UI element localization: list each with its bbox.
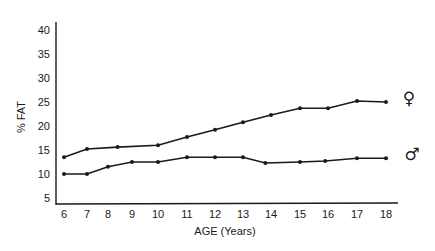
y-tick-label: 35 (38, 48, 50, 60)
y-tick-label: 25 (38, 96, 50, 108)
y-axis: 510152025303540 (38, 22, 56, 205)
data-point (213, 155, 217, 159)
y-tick-labels: 510152025303540 (38, 24, 50, 204)
data-point (326, 106, 330, 110)
data-point (116, 145, 120, 149)
data-point (106, 165, 110, 169)
data-point (241, 155, 245, 159)
line-chart: 510152025303540 6789101112131415161718 %… (0, 0, 435, 251)
data-point (355, 156, 359, 160)
x-tick-labels: 6789101112131415161718 (61, 208, 392, 220)
data-point (62, 155, 66, 159)
x-tick-label: 17 (351, 208, 363, 220)
data-point (298, 160, 302, 164)
y-tick-label: 30 (38, 72, 50, 84)
series-female (62, 99, 388, 159)
y-tick-label: 10 (38, 168, 50, 180)
x-tick-label: 12 (209, 208, 221, 220)
x-axis: 6789101112131415161718 (56, 203, 398, 220)
x-tick-label: 7 (84, 208, 90, 220)
y-axis-title: % FAT (15, 101, 27, 133)
x-tick-label: 13 (237, 208, 249, 220)
data-point (130, 160, 134, 164)
x-tick-label: 15 (294, 208, 306, 220)
x-tick-label: 6 (61, 208, 67, 220)
series-line (64, 157, 386, 174)
data-point (323, 159, 327, 163)
y-tick-label: 5 (44, 192, 50, 204)
x-tick-label: 18 (380, 208, 392, 220)
x-tick-label: 10 (152, 208, 164, 220)
data-point (263, 161, 267, 165)
data-point (156, 143, 160, 147)
data-point (355, 99, 359, 103)
data-point (269, 113, 273, 117)
data-point (62, 172, 66, 176)
data-point (384, 156, 388, 160)
x-tick-label: 16 (322, 208, 334, 220)
y-tick-label: 20 (38, 120, 50, 132)
x-axis-title: AGE (Years) (194, 225, 255, 237)
x-tick-label: 11 (181, 208, 192, 220)
x-tick-label: 14 (265, 208, 277, 220)
female-symbol-icon: ♀ (403, 88, 415, 108)
data-point (156, 160, 160, 164)
data-point (85, 172, 89, 176)
x-tick-label: 9 (129, 208, 135, 220)
x-tick-label: 8 (105, 208, 111, 220)
series-male (62, 155, 388, 176)
data-point (213, 128, 217, 132)
data-point (185, 155, 189, 159)
male-symbol-icon: ♂ (404, 144, 419, 164)
series-line (64, 101, 386, 157)
series-layer (62, 99, 388, 176)
data-point (85, 147, 89, 151)
y-tick-label: 40 (38, 24, 50, 36)
data-point (185, 135, 189, 139)
data-point (384, 100, 388, 104)
y-tick-label: 15 (38, 144, 50, 156)
data-point (241, 120, 245, 124)
data-point (298, 106, 302, 110)
